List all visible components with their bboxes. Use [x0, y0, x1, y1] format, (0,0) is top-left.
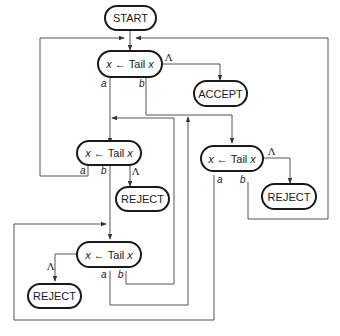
step3-arrow: ← — [217, 153, 228, 165]
edge-step4-reject3 — [55, 254, 78, 281]
step4-node: x ← Tail x — [76, 241, 142, 268]
edge-label-step2-lambda: Λ — [132, 167, 139, 177]
edge-label-step1-a: a — [101, 79, 107, 89]
edge-label-step4-b: b — [118, 270, 124, 280]
reject3-node: REJECT — [27, 283, 82, 309]
step2-node: x ← Tail x — [76, 140, 142, 166]
step1-var: x — [106, 58, 112, 70]
accept-node: ACCEPT — [193, 80, 248, 107]
step1-arrow: ← — [115, 58, 126, 70]
edge-label-step3-b: b — [240, 175, 246, 185]
edge-label-step1-lambda: Λ — [165, 53, 172, 63]
step2-arg: x — [127, 147, 133, 159]
edge-step3-reject2 — [262, 158, 290, 183]
step2-arrow: ← — [94, 147, 105, 159]
edge-label-step4-a: a — [101, 270, 107, 280]
edge-step1-accept — [162, 64, 220, 80]
accept-label: ACCEPT — [198, 88, 243, 100]
step3-arg: x — [250, 153, 256, 165]
reject1-label: REJECT — [121, 193, 164, 205]
step3-op: Tail — [231, 153, 248, 165]
edge-label-step4-lambda: Λ — [47, 262, 54, 272]
step4-arrow: ← — [94, 249, 105, 261]
edge-label-step3-a: a — [217, 175, 223, 185]
start-node: START — [104, 5, 157, 31]
reject2-node: REJECT — [261, 183, 317, 210]
reject3-label: REJECT — [33, 290, 76, 302]
reject2-label: REJECT — [268, 191, 311, 203]
edge-label-step1-b: b — [139, 79, 145, 89]
step2-op: Tail — [108, 147, 125, 159]
step2-var: x — [85, 147, 91, 159]
edge-label-step3-lambda: Λ — [268, 147, 275, 157]
step4-op: Tail — [108, 249, 125, 261]
step1-arg: x — [148, 58, 154, 70]
step4-arg: x — [127, 249, 133, 261]
edge-label-step2-a: a — [80, 166, 86, 176]
step1-node: x ← Tail x — [97, 50, 163, 78]
start-label: START — [113, 12, 148, 24]
step1-op: Tail — [129, 58, 146, 70]
edge-label-step2-b: b — [101, 166, 107, 176]
step3-node: x ← Tail x — [200, 145, 264, 172]
step3-var: x — [208, 153, 214, 165]
step4-var: x — [85, 249, 91, 261]
reject1-node: REJECT — [115, 186, 170, 212]
